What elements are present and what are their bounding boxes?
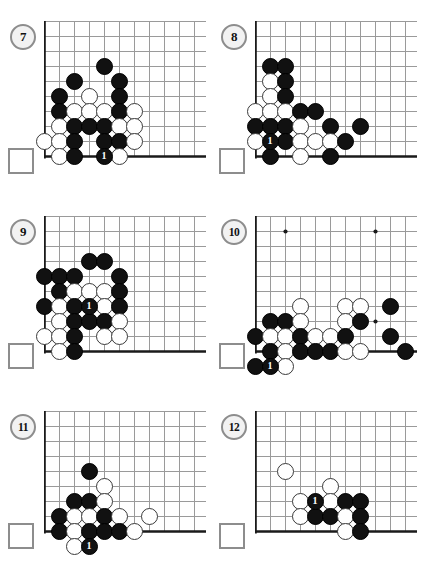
black-stone xyxy=(96,58,113,75)
white-stone xyxy=(81,103,98,120)
white-stone xyxy=(96,283,113,300)
black-stone xyxy=(352,508,369,525)
white-stone xyxy=(81,283,98,300)
black-stone xyxy=(66,328,83,345)
white-stone xyxy=(262,328,279,345)
black-stone: 1 xyxy=(262,133,279,150)
black-stone xyxy=(96,508,113,525)
black-stone xyxy=(247,358,264,375)
black-stone xyxy=(337,493,354,510)
black-stone xyxy=(277,313,294,330)
white-stone xyxy=(322,328,339,345)
black-stone xyxy=(352,493,369,510)
white-stone xyxy=(96,298,113,315)
black-stone xyxy=(292,328,309,345)
white-stone xyxy=(352,298,369,315)
white-stone xyxy=(337,343,354,360)
white-stone xyxy=(111,508,128,525)
black-stone xyxy=(96,313,113,330)
black-stone xyxy=(247,328,264,345)
white-stone xyxy=(247,103,264,120)
white-stone xyxy=(126,118,143,135)
move-number-label: 1 xyxy=(82,539,97,554)
white-stone xyxy=(322,478,339,495)
black-stone: 1 xyxy=(262,358,279,375)
white-stone xyxy=(126,523,143,540)
black-stone xyxy=(352,313,369,330)
empty-square-marker xyxy=(219,343,245,369)
problem-number-badge-11: 11 xyxy=(10,414,36,440)
black-stone xyxy=(262,343,279,360)
empty-square-marker xyxy=(8,343,34,369)
black-stone xyxy=(337,328,354,345)
black-stone xyxy=(111,298,128,315)
black-stone xyxy=(292,103,309,120)
white-stone xyxy=(81,88,98,105)
white-stone xyxy=(307,133,324,150)
white-stone xyxy=(66,283,83,300)
white-stone xyxy=(337,523,354,540)
black-stone xyxy=(322,118,339,135)
white-stone xyxy=(111,118,128,135)
black-stone xyxy=(111,103,128,120)
white-stone xyxy=(51,148,68,165)
black-stone xyxy=(66,148,83,165)
black-stone xyxy=(66,133,83,150)
move-number-label: 1 xyxy=(97,149,112,164)
white-stone xyxy=(66,538,83,555)
white-stone xyxy=(277,463,294,480)
white-stone xyxy=(126,133,143,150)
white-stone xyxy=(66,523,83,540)
black-stone xyxy=(81,118,98,135)
white-stone xyxy=(111,148,128,165)
white-stone xyxy=(292,508,309,525)
problem-number-badge-7: 7 xyxy=(10,24,36,50)
white-stone xyxy=(66,508,83,525)
black-stone xyxy=(51,508,68,525)
white-stone xyxy=(337,298,354,315)
black-stone xyxy=(96,253,113,270)
white-stone xyxy=(262,103,279,120)
black-stone xyxy=(262,118,279,135)
black-stone xyxy=(307,103,324,120)
black-stone xyxy=(322,148,339,165)
white-stone xyxy=(247,133,264,150)
black-stone: 1 xyxy=(307,493,324,510)
black-stone xyxy=(66,343,83,360)
black-stone xyxy=(36,298,53,315)
black-stone xyxy=(51,268,68,285)
white-stone xyxy=(292,118,309,135)
black-stone xyxy=(96,133,113,150)
black-stone xyxy=(262,58,279,75)
empty-square-marker xyxy=(8,148,34,174)
black-stone: 1 xyxy=(81,538,98,555)
black-stone xyxy=(277,73,294,90)
move-number-label: 1 xyxy=(308,494,323,509)
black-stone xyxy=(81,523,98,540)
black-stone xyxy=(352,523,369,540)
black-stone xyxy=(111,523,128,540)
black-stone xyxy=(51,523,68,540)
white-stone xyxy=(51,343,68,360)
white-stone xyxy=(262,88,279,105)
white-stone xyxy=(337,313,354,330)
black-stone xyxy=(51,88,68,105)
black-stone xyxy=(262,148,279,165)
black-stone xyxy=(81,313,98,330)
black-stone xyxy=(66,73,83,90)
white-stone xyxy=(96,478,113,495)
black-stone xyxy=(81,493,98,510)
black-stone xyxy=(382,328,399,345)
white-stone xyxy=(81,508,98,525)
black-stone xyxy=(111,283,128,300)
black-stone xyxy=(277,88,294,105)
white-stone xyxy=(36,328,53,345)
white-stone xyxy=(292,298,309,315)
black-stone xyxy=(66,268,83,285)
white-stone xyxy=(111,313,128,330)
black-stone xyxy=(36,268,53,285)
white-stone xyxy=(262,73,279,90)
black-stone xyxy=(352,118,369,135)
white-stone xyxy=(337,508,354,525)
